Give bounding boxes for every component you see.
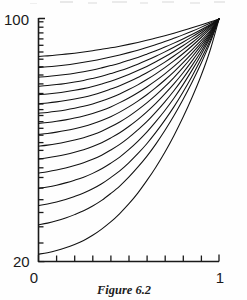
figure-caption: Figure 6.2 bbox=[96, 283, 151, 297]
y-axis-label-top: 100 bbox=[4, 11, 29, 28]
figure-6-2-plot: 100 20 0 1 Figure 6.2 bbox=[0, 0, 247, 300]
figure-container: 100 20 0 1 Figure 6.2 bbox=[0, 0, 247, 300]
x-axis-ticks bbox=[39, 255, 220, 262]
x-axis-label-right: 1 bbox=[216, 269, 224, 286]
y-axis-label-bottom: 20 bbox=[13, 253, 30, 270]
y-axis-ticks bbox=[39, 22, 45, 262]
curve-layer bbox=[39, 19, 220, 254]
x-axis-label-left: 0 bbox=[30, 269, 38, 286]
plot-curve bbox=[39, 19, 220, 56]
